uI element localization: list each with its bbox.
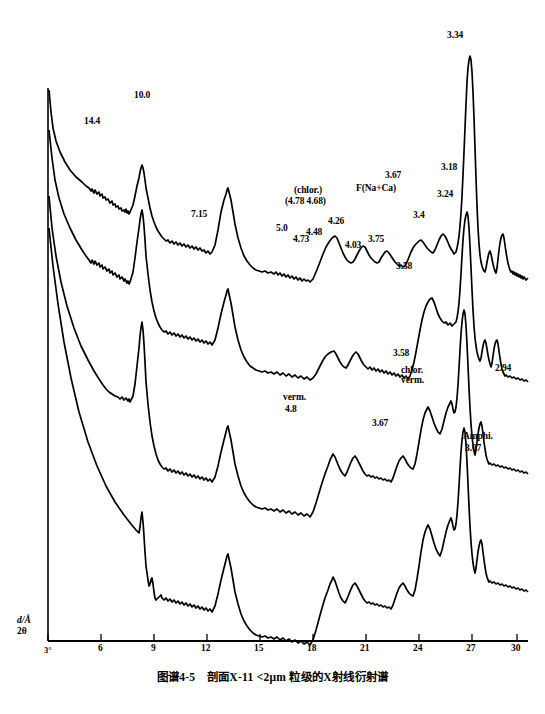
xrd-figure: 14.4 10.0 7.15 5.0 4.73 4.48 4.26 4.03 3… bbox=[0, 0, 545, 714]
peak-label-amphi: Amphi. bbox=[463, 431, 493, 441]
figure-caption: 图谱4-5 剖面X-11 <2μm 粒级的X射线衍射谱 bbox=[0, 668, 545, 684]
peak-label-4-48: 4.48 bbox=[306, 227, 322, 237]
axis-corner-label: d/Å 2θ bbox=[17, 615, 51, 637]
tick-label-18: 18 bbox=[307, 643, 317, 653]
peak-label-4-03: 4.03 bbox=[345, 240, 361, 250]
trace-4-bottom bbox=[49, 228, 528, 645]
tick-label-24: 24 bbox=[413, 643, 423, 653]
peak-label-chlor-paren: (chlor.) bbox=[294, 185, 322, 195]
peak-label-3-34: 3.34 bbox=[447, 30, 463, 40]
tick-label-12: 12 bbox=[201, 643, 211, 653]
peak-label-3-18: 3.18 bbox=[441, 162, 457, 172]
tick-label-6: 6 bbox=[98, 643, 103, 653]
peak-label-3-24: 3.24 bbox=[437, 189, 453, 199]
peak-label-3-67-top: 3.67 bbox=[385, 170, 401, 180]
peak-label-3-07: 3.07 bbox=[465, 443, 481, 453]
peak-label-verm: verm. bbox=[283, 392, 306, 402]
tick-label-15: 15 bbox=[254, 643, 264, 653]
xrd-diffractogram-svg bbox=[0, 0, 545, 660]
tick-label-30: 30 bbox=[511, 643, 521, 653]
y-axis-label: d/Å bbox=[17, 615, 51, 626]
tick-label-27: 27 bbox=[466, 643, 476, 653]
xrd-plot-area: 14.4 10.0 7.15 5.0 4.73 4.48 4.26 4.03 3… bbox=[0, 0, 545, 660]
peak-label-10-0: 10.0 bbox=[134, 90, 150, 100]
peak-label-3-58-upper: 3.58 bbox=[396, 261, 412, 271]
peak-label-3-75: 3.75 bbox=[368, 234, 384, 244]
peak-label-3-58-lower: 3.58 bbox=[393, 348, 409, 358]
peak-label-4-26: 4.26 bbox=[328, 216, 344, 226]
tick-label-3: 3° bbox=[44, 645, 52, 655]
peak-label-f-na-ca: F(Na+Ca) bbox=[356, 183, 396, 193]
peak-label-4-8: 4.8 bbox=[285, 404, 297, 414]
peak-label-3-67-lower: 3.67 bbox=[372, 418, 388, 428]
peak-label-7-15: 7.15 bbox=[191, 209, 207, 219]
tick-label-9: 9 bbox=[151, 643, 156, 653]
tick-label-21: 21 bbox=[360, 643, 370, 653]
peak-label-chlor-values: (4.78 4.68) bbox=[285, 196, 326, 206]
trace-3 bbox=[49, 196, 528, 517]
peak-label-chlor-verm: chlor. verm. bbox=[401, 365, 424, 385]
peak-label-2-94: 2.94 bbox=[495, 363, 511, 373]
peak-label-3-4: 3.4 bbox=[413, 210, 425, 220]
peak-label-14-4: 14.4 bbox=[84, 116, 100, 126]
peak-label-5-0: 5.0 bbox=[276, 223, 288, 233]
x-axis-label: 2θ bbox=[17, 626, 51, 637]
